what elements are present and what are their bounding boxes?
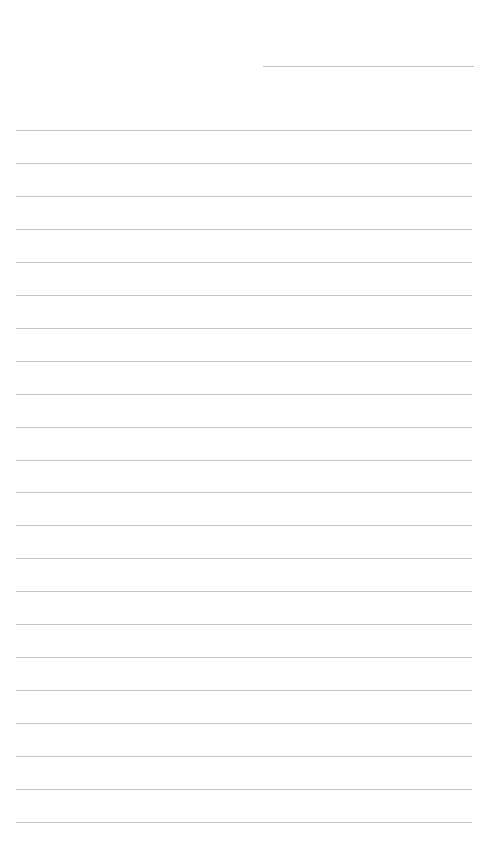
ruled-line bbox=[16, 229, 472, 230]
ruled-line bbox=[16, 624, 472, 625]
ruled-line bbox=[16, 394, 472, 395]
ruled-line bbox=[16, 361, 472, 362]
ruled-line bbox=[16, 591, 472, 592]
ruled-line bbox=[16, 295, 472, 296]
header-line bbox=[263, 66, 474, 67]
ruled-line bbox=[16, 558, 472, 559]
ruled-line bbox=[16, 723, 472, 724]
ruled-line bbox=[16, 328, 472, 329]
ruled-line bbox=[16, 492, 472, 493]
ruled-line bbox=[16, 196, 472, 197]
ruled-line bbox=[16, 690, 472, 691]
ruled-line bbox=[16, 525, 472, 526]
ruled-line bbox=[16, 756, 472, 757]
ruled-line bbox=[16, 262, 472, 263]
ruled-line bbox=[16, 657, 472, 658]
ruled-line bbox=[16, 130, 472, 131]
ruled-line bbox=[16, 163, 472, 164]
ruled-line bbox=[16, 427, 472, 428]
ruled-line bbox=[16, 460, 472, 461]
ruled-line bbox=[16, 789, 472, 790]
ruled-line bbox=[16, 822, 472, 823]
